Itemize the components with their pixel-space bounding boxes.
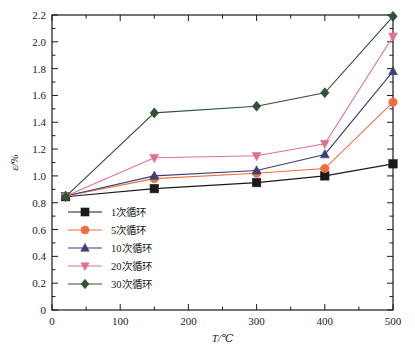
x-tick-label: 100 <box>112 315 129 327</box>
y-tick-label: 0.2 <box>32 277 46 289</box>
y-tick-label: 2.2 <box>32 9 46 21</box>
legend-label: 20次循环 <box>111 260 152 272</box>
y-tick-label: 1.6 <box>32 89 46 101</box>
legend-marker <box>81 226 89 234</box>
y-tick-label: 0 <box>41 304 47 316</box>
x-tick-label: 0 <box>49 315 55 327</box>
data-point-marker <box>389 98 397 106</box>
legend-label: 30次循环 <box>111 278 152 290</box>
line-chart-canvas: 00.20.40.60.81.01.21.41.61.82.02.2 01002… <box>0 0 415 346</box>
y-tick-label: 2.0 <box>32 36 46 48</box>
chart-figure: 00.20.40.60.81.01.21.41.61.82.02.2 01002… <box>0 0 415 346</box>
x-tick-label: 200 <box>180 315 197 327</box>
y-tick-label: 1.8 <box>32 63 46 75</box>
x-tick-label: 500 <box>385 315 402 327</box>
y-axis-title: ε/% <box>8 154 20 171</box>
data-point-marker <box>252 178 260 186</box>
x-tick-label: 300 <box>248 315 265 327</box>
legend-label: 1次循环 <box>111 206 146 218</box>
x-tick-label: 400 <box>317 315 334 327</box>
legend-label: 5次循环 <box>111 224 146 236</box>
data-point-marker <box>321 164 329 172</box>
legend-label: 10次循环 <box>111 242 152 254</box>
y-tick-label: 1.2 <box>32 143 46 155</box>
y-tick-label: 1.0 <box>32 170 46 182</box>
x-axis-title: T/℃ <box>212 332 234 344</box>
legend-marker <box>81 208 89 216</box>
data-point-marker <box>389 160 397 168</box>
y-tick-label: 0.6 <box>32 224 46 236</box>
data-point-marker <box>150 184 158 192</box>
y-tick-label: 0.8 <box>32 197 46 209</box>
y-tick-label: 1.4 <box>32 116 46 128</box>
y-tick-label: 0.4 <box>32 250 46 262</box>
